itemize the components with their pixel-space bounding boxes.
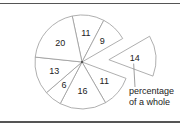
slice-label: 11: [100, 76, 109, 86]
slice-label: 13: [49, 66, 59, 76]
annotation-line-2: of a whole: [129, 97, 174, 108]
slice-label: 20: [55, 38, 65, 48]
slice-label: 6: [61, 80, 66, 90]
slice-label: 9: [100, 36, 105, 46]
annotation-label: percentage of a whole: [129, 86, 174, 108]
slice-label: 11: [81, 28, 90, 38]
pie-center-dot: [81, 61, 83, 63]
annotation-line-1: percentage: [129, 86, 174, 97]
slice-label: 16: [78, 86, 88, 96]
slice-label: 14: [130, 53, 140, 63]
